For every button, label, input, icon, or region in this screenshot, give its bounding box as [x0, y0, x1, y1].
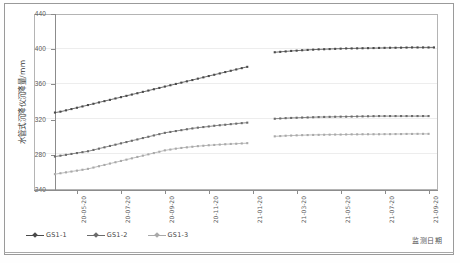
series-marker — [180, 147, 182, 149]
series-marker — [312, 134, 314, 136]
series-marker — [54, 156, 56, 158]
series-marker — [296, 134, 298, 136]
series-marker — [92, 167, 94, 169]
series-marker — [241, 142, 243, 144]
series-marker — [136, 156, 138, 158]
series-marker — [65, 171, 67, 173]
series-marker — [400, 47, 402, 49]
series-marker — [158, 133, 160, 135]
series-marker — [98, 101, 100, 103]
legend-label-gs1-3: GS1-3 — [168, 231, 189, 239]
series-marker — [400, 115, 402, 117]
x-tick-label: 20-05-20 — [80, 196, 87, 223]
series-marker — [76, 170, 78, 172]
series-marker — [345, 133, 347, 135]
series-marker — [109, 163, 111, 165]
series-marker — [428, 115, 430, 117]
series-marker — [411, 46, 413, 48]
series-marker — [428, 133, 430, 135]
series-marker — [422, 46, 424, 48]
series-marker — [224, 124, 226, 126]
series-marker — [395, 47, 397, 49]
series-marker — [406, 115, 408, 117]
series-marker — [323, 134, 325, 136]
series-marker — [92, 149, 94, 151]
series-marker — [131, 94, 133, 96]
series-marker — [180, 82, 182, 84]
x-tick-label: 20-07-20 — [124, 196, 131, 223]
series-marker — [164, 132, 166, 134]
series-marker — [290, 50, 292, 52]
series-marker — [373, 133, 375, 135]
series-marker — [59, 155, 61, 157]
series-marker — [340, 134, 342, 136]
series-marker — [378, 133, 380, 135]
series-marker — [428, 46, 430, 48]
series-marker — [65, 154, 67, 156]
series-marker — [120, 160, 122, 162]
series-marker — [356, 47, 358, 49]
legend-item-gs1-2[interactable]: GS1-2 — [87, 231, 128, 239]
series-marker — [186, 146, 188, 148]
series-marker — [318, 116, 320, 118]
series-marker — [362, 47, 364, 49]
series-marker — [219, 124, 221, 126]
series-marker — [103, 164, 105, 166]
series-marker — [400, 133, 402, 135]
series-marker — [395, 133, 397, 135]
series-marker — [329, 134, 331, 136]
legend-label-gs1-1: GS1-1 — [46, 231, 67, 239]
series-marker — [191, 79, 193, 81]
series-marker — [323, 48, 325, 50]
series-marker — [235, 143, 237, 145]
series-marker — [59, 111, 61, 113]
series-marker — [202, 126, 204, 128]
series-marker — [345, 116, 347, 118]
series-marker — [186, 128, 188, 130]
series-marker — [120, 96, 122, 98]
series-marker — [235, 123, 237, 125]
series-marker — [373, 115, 375, 117]
series-marker — [153, 88, 155, 90]
legend-item-gs1-1[interactable]: GS1-1 — [26, 231, 67, 239]
series-marker — [279, 135, 281, 137]
bottom-rule — [4, 252, 454, 253]
y-axis-title-wrap: 水管式沉降仪沉降量/mm — [14, 14, 28, 190]
series-marker — [274, 135, 276, 137]
series-marker — [345, 47, 347, 49]
series-marker — [109, 99, 111, 101]
x-axis-line — [34, 190, 438, 191]
series-marker — [285, 135, 287, 137]
series-marker — [433, 46, 435, 48]
series-marker — [65, 109, 67, 111]
series-marker — [384, 115, 386, 117]
series-line-gs1-3 — [55, 143, 247, 174]
series-marker — [318, 48, 320, 50]
series-marker — [76, 152, 78, 154]
series-marker — [241, 122, 243, 124]
series-marker — [384, 47, 386, 49]
series-marker — [307, 116, 309, 118]
series-marker — [340, 116, 342, 118]
series-marker — [246, 122, 248, 124]
series-marker — [114, 97, 116, 99]
series-marker — [241, 67, 243, 69]
series-marker — [175, 130, 177, 132]
series-marker — [417, 115, 419, 117]
series-marker — [197, 78, 199, 80]
y-axis-title: 水管式沉降仪沉降量/mm — [16, 60, 27, 145]
series-marker — [334, 116, 336, 118]
series-marker — [340, 48, 342, 50]
series-marker — [323, 116, 325, 118]
series-marker — [307, 49, 309, 51]
series-marker — [334, 48, 336, 50]
series-marker — [103, 100, 105, 102]
series-marker — [378, 47, 380, 49]
legend-item-gs1-3[interactable]: GS1-3 — [148, 231, 189, 239]
series-marker — [169, 149, 171, 151]
series-marker — [224, 71, 226, 73]
series-marker — [422, 115, 424, 117]
series-marker — [98, 165, 100, 167]
series-marker — [164, 149, 166, 151]
series-marker — [213, 74, 215, 76]
